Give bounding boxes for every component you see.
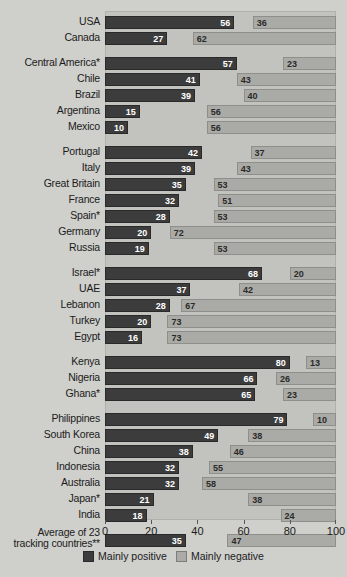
bar-value-positive: 19 [135,243,145,256]
row-label: South Korea [0,428,100,441]
bar-mainly-positive: 39 [105,89,195,102]
chart-row: France3251 [0,194,347,207]
bar-mainly-positive: 20 [105,226,151,239]
bar-value-negative: 56 [211,106,221,119]
bar-value-negative: 36 [257,17,267,30]
row-label: Turkey [0,314,100,327]
chart-row: Chile4143 [0,73,347,86]
row-label: Israel* [0,266,100,279]
row-label: Chile [0,72,100,85]
bar-mainly-negative: 38 [248,429,336,442]
row-track: 2138 [105,493,336,506]
chart-row: Russia1953 [0,242,347,255]
bar-value-negative: 53 [218,243,228,256]
bar-mainly-positive: 42 [105,146,202,159]
legend-item: Mainly negative [176,550,264,562]
bar-value-positive: 21 [139,494,149,507]
bar-mainly-negative: 62 [193,32,336,45]
chart-row: Indonesia3255 [0,461,347,474]
bar-mainly-positive: 79 [105,413,287,426]
x-axis: 020406080100 [105,520,336,540]
bar-mainly-negative: 43 [237,162,336,175]
bar-mainly-negative: 51 [218,194,336,207]
row-label: Ghana* [0,387,100,400]
bar-mainly-positive: 28 [105,299,170,312]
bar-value-positive: 32 [165,478,175,491]
bar-mainly-positive: 32 [105,461,179,474]
axis-tick-label: 60 [237,524,249,538]
bar-value-positive: 20 [137,316,147,329]
bar-mainly-negative: 55 [209,461,336,474]
chart-row: Nigeria6626 [0,372,347,385]
row-label: Mexico [0,120,100,133]
legend-item: Mainly positive [83,550,167,562]
bar-mainly-negative: 23 [283,388,336,401]
row-track: 3846 [105,445,336,458]
bar-value-negative: 40 [248,90,258,103]
plot-area [105,11,336,520]
row-track: 6626 [105,372,336,385]
row-track: 4938 [105,429,336,442]
bar-value-positive: 32 [165,462,175,475]
row-label: Average of 23tracking countries** [0,527,100,549]
bar-mainly-negative: 42 [239,283,336,296]
row-track: 1673 [105,331,336,344]
row-label: Argentina [0,104,100,117]
bar-value-positive: 66 [243,373,253,386]
row-label: UAE [0,282,100,295]
bar-value-negative: 72 [174,227,184,240]
bar-value-negative: 43 [241,74,251,87]
bar-mainly-negative: 67 [181,299,336,312]
row-track: 4237 [105,146,336,159]
bar-value-negative: 43 [241,163,251,176]
bar-value-positive: 49 [204,430,214,443]
bar-mainly-negative: 46 [230,445,336,458]
legend-label: Mainly positive [98,550,167,562]
row-label: France [0,193,100,206]
bar-value-negative: 58 [206,478,216,491]
bar-value-negative: 26 [280,373,290,386]
chart-row: Philippines7910 [0,413,347,426]
bar-value-positive: 20 [137,227,147,240]
bar-value-negative: 20 [294,268,304,281]
bar-value-negative: 37 [255,147,265,160]
bar-mainly-positive: 37 [105,283,190,296]
bar-mainly-positive: 41 [105,73,200,86]
bar-mainly-negative: 40 [244,89,336,102]
bar-mainly-positive: 66 [105,372,257,385]
bar-mainly-positive: 32 [105,194,179,207]
bar-value-positive: 42 [188,147,198,160]
bar-value-positive: 39 [181,163,191,176]
row-label: USA [0,15,100,28]
bar-mainly-negative: 56 [207,105,336,118]
row-label: Central America* [0,56,100,69]
bar-value-positive: 28 [156,300,166,313]
chart-row: Canada2762 [0,32,347,45]
bar-mainly-negative: 56 [207,121,336,134]
bar-value-negative: 55 [213,462,223,475]
bar-mainly-negative: 58 [202,477,336,490]
bar-value-negative: 67 [185,300,195,313]
legend-swatch-negative [176,551,187,562]
row-track: 3940 [105,89,336,102]
bar-mainly-negative: 72 [170,226,336,239]
row-track: 6523 [105,388,336,401]
bar-mainly-positive: 39 [105,162,195,175]
bar-mainly-positive: 27 [105,32,167,45]
row-track: 6820 [105,267,336,280]
bar-value-negative: 46 [234,446,244,459]
bar-mainly-negative: 43 [237,73,336,86]
bar-value-negative: 42 [243,284,253,297]
bar-value-positive: 79 [273,414,283,427]
row-label: Canada [0,31,100,44]
bar-value-negative: 23 [287,389,297,402]
row-track: 2867 [105,299,336,312]
legend-label: Mainly negative [191,550,264,562]
chart-row: Portugal4237 [0,146,347,159]
bar-mainly-positive: 65 [105,388,255,401]
bar-mainly-positive: 10 [105,121,128,134]
bar-value-negative: 53 [218,179,228,192]
bar-value-positive: 56 [220,17,230,30]
row-track: 5636 [105,16,336,29]
bar-value-positive: 65 [241,389,251,402]
